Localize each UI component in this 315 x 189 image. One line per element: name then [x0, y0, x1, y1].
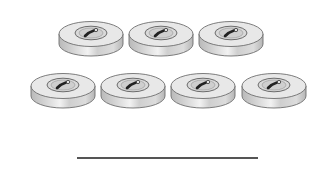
button-icon	[170, 71, 236, 109]
button-icon	[30, 71, 96, 109]
button-icon	[198, 19, 264, 57]
button-icon	[241, 71, 307, 109]
button-icon	[128, 19, 194, 57]
answer-line[interactable]	[77, 157, 258, 159]
button-icon	[58, 19, 124, 57]
button-icon	[100, 71, 166, 109]
